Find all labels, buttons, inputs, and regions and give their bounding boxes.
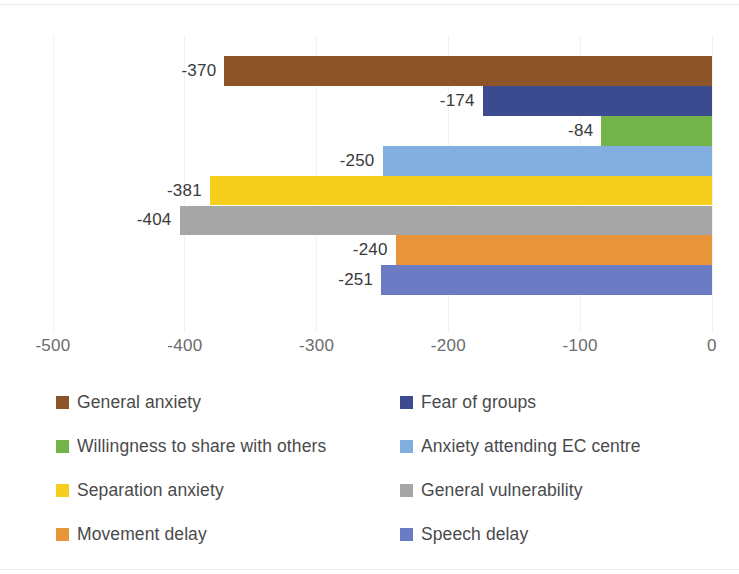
legend-item[interactable]: Movement delay xyxy=(56,522,207,546)
x-tick-label: -200 xyxy=(431,336,466,356)
bar[interactable] xyxy=(224,56,712,86)
legend-label: Willingness to share with others xyxy=(77,436,326,457)
bar-value-label: -84 xyxy=(568,121,593,141)
bar-value-label: -381 xyxy=(167,181,202,201)
legend-item[interactable]: General anxiety xyxy=(56,390,201,414)
legend-label: Separation anxiety xyxy=(77,480,224,501)
bar-row: -370 xyxy=(0,56,739,86)
legend-item[interactable]: Willingness to share with others xyxy=(56,434,326,458)
x-axis: -500-400-300-200-1000 xyxy=(0,336,739,366)
legend-label: General vulnerability xyxy=(421,480,583,501)
x-tick-label: -100 xyxy=(563,336,598,356)
bar-value-label: -250 xyxy=(340,151,375,171)
legend-item[interactable]: Speech delay xyxy=(400,522,528,546)
legend-item[interactable]: Fear of groups xyxy=(400,390,536,414)
x-tick-label: 0 xyxy=(707,336,717,356)
bar-value-label: -251 xyxy=(338,270,373,290)
bar-value-label: -370 xyxy=(182,61,217,81)
legend-label: Fear of groups xyxy=(421,392,536,413)
bars-layer: -370-174-84-250-381-404-240-251 xyxy=(0,56,739,296)
bar-row: -174 xyxy=(0,86,739,116)
bar[interactable] xyxy=(210,176,712,206)
bar-row: -240 xyxy=(0,235,739,265)
bar-chart: -370-174-84-250-381-404-240-251 -500-400… xyxy=(0,0,739,574)
bar-row: -381 xyxy=(0,176,739,206)
legend-label: General anxiety xyxy=(77,392,201,413)
legend-swatch-icon xyxy=(400,440,413,453)
bar-row: -404 xyxy=(0,206,739,236)
bar-row: -251 xyxy=(0,265,739,295)
bar[interactable] xyxy=(396,235,712,265)
legend-swatch-icon xyxy=(400,484,413,497)
bar-row: -84 xyxy=(0,116,739,146)
scan-artifact-top xyxy=(0,4,739,5)
scan-artifact-bottom xyxy=(0,569,739,570)
legend-item[interactable]: Anxiety attending EC centre xyxy=(400,434,641,458)
bar[interactable] xyxy=(381,265,712,295)
bar[interactable] xyxy=(601,116,712,146)
bar[interactable] xyxy=(483,86,712,116)
legend-swatch-icon xyxy=(56,528,69,541)
plot-area: -370-174-84-250-381-404-240-251 xyxy=(0,36,739,332)
legend-swatch-icon xyxy=(56,396,69,409)
bar-value-label: -240 xyxy=(353,240,388,260)
bar-value-label: -404 xyxy=(137,210,172,230)
bar[interactable] xyxy=(180,206,712,236)
legend-label: Movement delay xyxy=(77,524,207,545)
bar-row: -250 xyxy=(0,146,739,176)
legend-swatch-icon xyxy=(56,440,69,453)
legend-swatch-icon xyxy=(56,484,69,497)
x-tick-label: -300 xyxy=(299,336,334,356)
legend-item[interactable]: General vulnerability xyxy=(400,478,583,502)
x-tick-label: -500 xyxy=(35,336,70,356)
legend-label: Speech delay xyxy=(421,524,528,545)
x-tick-label: -400 xyxy=(167,336,202,356)
bar-value-label: -174 xyxy=(440,91,475,111)
chart-legend: General anxietyFear of groupsWillingness… xyxy=(56,390,716,555)
legend-swatch-icon xyxy=(400,396,413,409)
legend-label: Anxiety attending EC centre xyxy=(421,436,641,457)
legend-swatch-icon xyxy=(400,528,413,541)
bar[interactable] xyxy=(383,146,713,176)
legend-item[interactable]: Separation anxiety xyxy=(56,478,224,502)
